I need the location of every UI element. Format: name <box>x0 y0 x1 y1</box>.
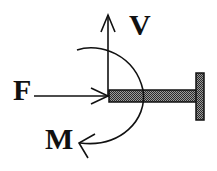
shear-label: V <box>129 8 151 41</box>
shear-arrow-icon <box>101 15 115 97</box>
beam <box>109 90 197 102</box>
moment-arrow-icon <box>77 48 144 158</box>
axial-force-arrow-icon <box>34 88 108 104</box>
axial-force-label: F <box>13 73 31 106</box>
wall-support <box>196 73 204 120</box>
moment-label: M <box>45 122 73 155</box>
free-body-diagram: V F M <box>0 0 217 171</box>
